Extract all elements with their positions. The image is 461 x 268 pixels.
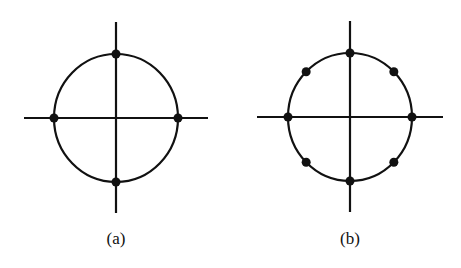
root-point xyxy=(50,114,59,123)
figure-b-caption: (b) xyxy=(340,229,360,249)
root-point xyxy=(389,67,398,76)
root-point xyxy=(174,114,183,123)
root-point xyxy=(389,158,398,167)
root-point xyxy=(346,49,355,58)
root-point xyxy=(302,158,311,167)
figure-a-unit-circle-4-points xyxy=(24,22,208,213)
root-point xyxy=(112,50,121,59)
root-point xyxy=(284,113,293,122)
root-point xyxy=(302,67,311,76)
figure-a-caption: (a) xyxy=(107,229,126,249)
root-point xyxy=(346,177,355,186)
root-point xyxy=(112,178,121,187)
diagram-canvas xyxy=(0,0,461,268)
root-point xyxy=(408,113,417,122)
figure-b-unit-circle-8-points xyxy=(257,21,443,212)
